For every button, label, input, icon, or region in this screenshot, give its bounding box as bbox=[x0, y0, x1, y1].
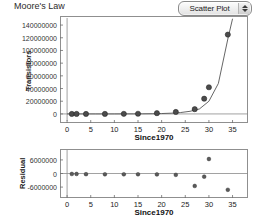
main-plot-canvas bbox=[60, 16, 248, 123]
up-down-stepper-icon[interactable] bbox=[238, 3, 250, 14]
page-title: Moore's Law bbox=[14, 1, 65, 11]
residual-x-axis-label: Since1970 bbox=[60, 208, 248, 217]
y-tick-label: 0 bbox=[53, 110, 57, 117]
y-tick-label: 100000000 bbox=[22, 47, 57, 54]
residual-plot-canvas bbox=[60, 149, 248, 198]
y-tick-label: 6000000 bbox=[30, 156, 57, 163]
plot-type-dropdown[interactable]: Scatter Plot bbox=[178, 1, 252, 16]
y-tick-label: 20000000 bbox=[26, 98, 57, 105]
residual-y-axis-label: Residual bbox=[18, 151, 27, 196]
y-tick-label: 120000000 bbox=[22, 34, 57, 41]
y-tick-label: 60000000 bbox=[26, 72, 57, 79]
y-tick-label: 0 bbox=[53, 170, 57, 177]
y-tick-label: 140000000 bbox=[22, 22, 57, 29]
moores-law-plot-window: Moore's Law Scatter Plot Transistors 020… bbox=[0, 0, 257, 224]
main-scatter-plot[interactable] bbox=[60, 16, 248, 123]
main-x-axis-label: Since1970 bbox=[60, 133, 248, 142]
residual-scatter-plot[interactable] bbox=[60, 149, 248, 198]
y-tick-label: 80000000 bbox=[26, 60, 57, 67]
y-tick-label: -6000000 bbox=[27, 184, 57, 191]
y-tick-label: 40000000 bbox=[26, 85, 57, 92]
plot-type-label: Scatter Plot bbox=[179, 4, 238, 13]
